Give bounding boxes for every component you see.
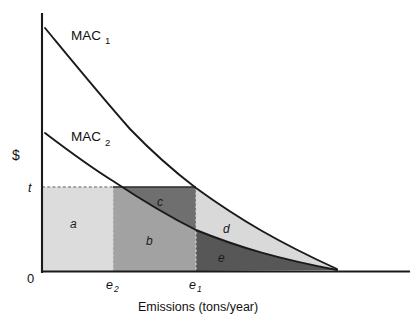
x-tick-e2-group: e 2 [106,278,119,294]
region-a: a [42,187,113,271]
mac1-label: MAC [71,28,101,43]
origin-label: 0 [27,271,34,286]
region-c-label: c [157,195,163,209]
y-axis-label: $ [12,147,20,163]
x-tick-subscript-e1: 1 [197,284,202,294]
mac1-subscript: 1 [105,35,110,46]
region-d-label: d [223,222,230,236]
region-b-label: b [146,234,153,248]
x-tick-label-e2: e [106,278,113,292]
x-tick-e1-group: e 1 [189,278,202,294]
mac2-subscript: 2 [105,137,110,148]
region-e-label: e [218,251,225,265]
x-tick-subscript-e2: 2 [113,284,119,294]
mac1-label-group: MAC 1 [71,28,110,46]
mac-curve-figure: a c b d e [0,0,413,318]
region-a-label: a [70,217,77,231]
chart-svg: a c b d e [0,0,413,318]
x-axis-label: Emissions (tons/year) [138,300,258,314]
mac2-label-group: MAC 2 [71,129,110,148]
y-tick-label-t: t [28,181,32,195]
x-tick-label-e1: e [189,278,196,292]
mac2-label: MAC [71,129,101,144]
